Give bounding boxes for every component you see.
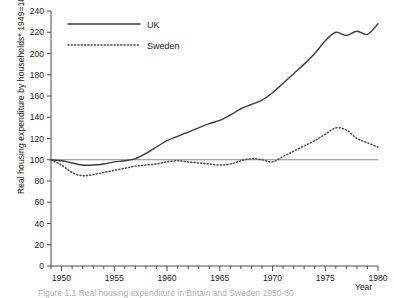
figure-caption: Figure 1.1 Real housing expenditure in B… bbox=[38, 288, 294, 298]
legend-label-uk: UK bbox=[147, 20, 160, 30]
y-tick-label-100: 100 bbox=[30, 155, 44, 165]
x-tick-label-1950: 1950 bbox=[52, 273, 71, 283]
x-tick-label-1975: 1975 bbox=[316, 273, 335, 283]
x-tick-label-1970: 1970 bbox=[263, 273, 282, 283]
y-tick-label-160: 160 bbox=[30, 91, 44, 101]
y-tick-label-220: 220 bbox=[30, 27, 44, 37]
y-tick-label-240: 240 bbox=[30, 6, 44, 16]
y-tick-label-140: 140 bbox=[30, 112, 44, 122]
y-tick-label-60: 60 bbox=[35, 197, 45, 207]
x-tick-group: 1950195519601965197019751980 bbox=[51, 266, 388, 283]
x-tick-label-1965: 1965 bbox=[210, 273, 229, 283]
x-tick-label-1955: 1955 bbox=[105, 273, 124, 283]
y-tick-group: 020406080100120140160180200220240 bbox=[30, 6, 51, 271]
y-tick-label-80: 80 bbox=[35, 176, 45, 186]
x-axis-label: Year bbox=[355, 282, 372, 292]
legend-label-sweden: Sweden bbox=[147, 41, 180, 51]
y-tick-label-180: 180 bbox=[30, 70, 44, 80]
y-tick-label-20: 20 bbox=[35, 240, 45, 250]
y-tick-label-200: 200 bbox=[30, 49, 44, 59]
y-tick-label-40: 40 bbox=[35, 219, 45, 229]
legend: UK Sweden bbox=[68, 20, 180, 51]
y-tick-label-0: 0 bbox=[39, 261, 44, 271]
series-line-sweden bbox=[51, 128, 378, 176]
series-line-uk bbox=[51, 24, 378, 166]
x-tick-label-1960: 1960 bbox=[158, 273, 177, 283]
y-axis: 020406080100120140160180200220240 bbox=[30, 6, 51, 271]
x-axis: 1950195519601965197019751980 bbox=[51, 266, 388, 283]
y-tick-label-120: 120 bbox=[30, 134, 44, 144]
